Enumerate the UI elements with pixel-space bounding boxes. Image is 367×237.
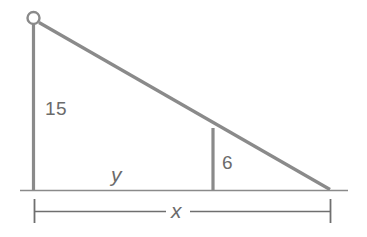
- pole-height-label: 15: [45, 99, 67, 118]
- inner-height-label: 6: [222, 153, 233, 172]
- hypotenuse-line: [39, 23, 330, 190]
- geometry-figure: 15 6 y x: [0, 0, 367, 237]
- circle-marker-icon: [28, 12, 40, 24]
- total-base-label: x: [171, 200, 182, 221]
- inner-base-label: y: [111, 164, 122, 185]
